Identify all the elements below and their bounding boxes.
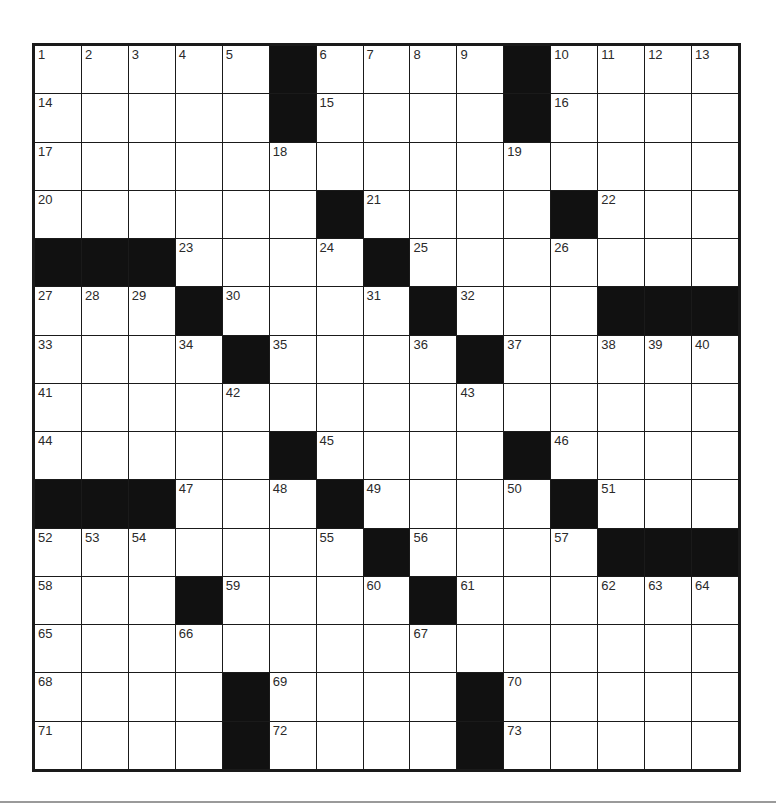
grid-cell[interactable] (82, 384, 128, 431)
grid-cell[interactable] (457, 191, 503, 238)
grid-cell[interactable]: 53 (82, 529, 128, 576)
grid-cell[interactable]: 25 (410, 239, 456, 286)
grid-cell[interactable]: 67 (410, 625, 456, 672)
grid-cell[interactable]: 54 (129, 529, 175, 576)
grid-cell[interactable]: 35 (270, 336, 316, 383)
grid-cell[interactable] (457, 239, 503, 286)
grid-cell[interactable]: 15 (317, 94, 363, 141)
grid-cell[interactable] (223, 432, 269, 479)
grid-cell[interactable]: 72 (270, 722, 316, 769)
grid-cell[interactable]: 19 (504, 143, 550, 190)
grid-cell[interactable] (410, 384, 456, 431)
grid-cell[interactable] (82, 336, 128, 383)
grid-cell[interactable]: 18 (270, 143, 316, 190)
grid-cell[interactable] (692, 432, 738, 479)
grid-cell[interactable]: 7 (364, 46, 410, 93)
grid-cell[interactable] (457, 143, 503, 190)
grid-cell[interactable] (551, 673, 597, 720)
grid-cell[interactable]: 69 (270, 673, 316, 720)
grid-cell[interactable] (129, 384, 175, 431)
grid-cell[interactable] (598, 143, 644, 190)
grid-cell[interactable] (129, 673, 175, 720)
grid-cell[interactable]: 60 (364, 577, 410, 624)
grid-cell[interactable] (176, 191, 222, 238)
grid-cell[interactable]: 56 (410, 529, 456, 576)
grid-cell[interactable] (692, 722, 738, 769)
grid-cell[interactable]: 36 (410, 336, 456, 383)
grid-cell[interactable] (270, 191, 316, 238)
grid-cell[interactable] (176, 432, 222, 479)
grid-cell[interactable]: 24 (317, 239, 363, 286)
grid-cell[interactable] (645, 143, 691, 190)
grid-cell[interactable] (223, 191, 269, 238)
grid-cell[interactable] (598, 384, 644, 431)
grid-cell[interactable] (504, 239, 550, 286)
grid-cell[interactable]: 49 (364, 480, 410, 527)
grid-cell[interactable] (223, 625, 269, 672)
grid-cell[interactable]: 64 (692, 577, 738, 624)
grid-cell[interactable]: 63 (645, 577, 691, 624)
grid-cell[interactable] (645, 625, 691, 672)
grid-cell[interactable] (410, 94, 456, 141)
grid-cell[interactable] (645, 722, 691, 769)
grid-cell[interactable] (82, 625, 128, 672)
grid-cell[interactable] (598, 625, 644, 672)
grid-cell[interactable]: 14 (35, 94, 81, 141)
grid-cell[interactable] (364, 722, 410, 769)
grid-cell[interactable]: 44 (35, 432, 81, 479)
grid-cell[interactable] (551, 384, 597, 431)
grid-cell[interactable] (129, 143, 175, 190)
grid-cell[interactable]: 58 (35, 577, 81, 624)
grid-cell[interactable]: 22 (598, 191, 644, 238)
grid-cell[interactable] (223, 480, 269, 527)
grid-cell[interactable]: 20 (35, 191, 81, 238)
grid-cell[interactable] (551, 287, 597, 334)
grid-cell[interactable] (129, 625, 175, 672)
grid-cell[interactable] (551, 336, 597, 383)
grid-cell[interactable] (692, 625, 738, 672)
grid-cell[interactable]: 61 (457, 577, 503, 624)
grid-cell[interactable] (82, 432, 128, 479)
grid-cell[interactable] (317, 287, 363, 334)
grid-cell[interactable] (364, 625, 410, 672)
grid-cell[interactable] (129, 722, 175, 769)
grid-cell[interactable] (504, 577, 550, 624)
grid-cell[interactable] (317, 384, 363, 431)
grid-cell[interactable] (270, 625, 316, 672)
grid-cell[interactable]: 10 (551, 46, 597, 93)
grid-cell[interactable] (410, 722, 456, 769)
grid-cell[interactable] (270, 384, 316, 431)
grid-cell[interactable] (551, 625, 597, 672)
grid-cell[interactable]: 21 (364, 191, 410, 238)
grid-cell[interactable]: 1 (35, 46, 81, 93)
grid-cell[interactable]: 30 (223, 287, 269, 334)
grid-cell[interactable] (82, 577, 128, 624)
grid-cell[interactable] (645, 191, 691, 238)
grid-cell[interactable] (176, 143, 222, 190)
grid-cell[interactable] (410, 480, 456, 527)
grid-cell[interactable] (692, 673, 738, 720)
grid-cell[interactable]: 43 (457, 384, 503, 431)
grid-cell[interactable] (82, 191, 128, 238)
grid-cell[interactable]: 26 (551, 239, 597, 286)
grid-cell[interactable] (598, 94, 644, 141)
grid-cell[interactable]: 17 (35, 143, 81, 190)
grid-cell[interactable] (317, 673, 363, 720)
grid-cell[interactable]: 73 (504, 722, 550, 769)
grid-cell[interactable] (129, 336, 175, 383)
grid-cell[interactable] (129, 94, 175, 141)
grid-cell[interactable] (692, 239, 738, 286)
grid-cell[interactable] (176, 673, 222, 720)
grid-cell[interactable] (129, 577, 175, 624)
grid-cell[interactable] (364, 143, 410, 190)
grid-cell[interactable] (504, 384, 550, 431)
grid-cell[interactable] (129, 191, 175, 238)
grid-cell[interactable] (504, 529, 550, 576)
grid-cell[interactable] (645, 673, 691, 720)
grid-cell[interactable]: 38 (598, 336, 644, 383)
grid-cell[interactable]: 46 (551, 432, 597, 479)
grid-cell[interactable] (364, 94, 410, 141)
grid-cell[interactable] (364, 673, 410, 720)
grid-cell[interactable] (551, 722, 597, 769)
grid-cell[interactable] (504, 191, 550, 238)
